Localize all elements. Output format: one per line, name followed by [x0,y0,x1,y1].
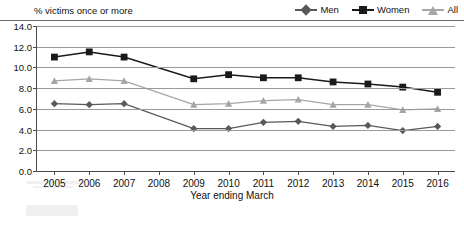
x-tick-mark [194,171,195,175]
gridline [37,130,455,131]
legend-item-men[interactable]: Men [295,4,338,15]
y-tick-label: 2.0 [19,145,32,156]
gridline [37,109,455,110]
x-tick-mark [124,171,125,175]
legend-item-all[interactable]: All [422,4,458,15]
gridline [37,47,455,48]
y-tick-mark [33,109,37,110]
data-point-men-2010[interactable] [225,125,232,132]
y-tick-label: 0.0 [19,166,32,177]
y-tick-label: 8.0 [19,83,32,94]
data-point-women-2010[interactable] [225,71,232,78]
x-axis-title: Year ending March [0,190,464,201]
x-tick-label: 2013 [322,178,344,189]
x-tick-label: 2010 [217,178,239,189]
gridline [37,150,455,151]
x-tick-mark [229,171,230,175]
data-point-men-2014[interactable] [364,122,371,129]
x-tick-mark [333,171,334,175]
x-tick-mark [89,171,90,175]
x-tick-mark [298,171,299,175]
data-point-women-2007[interactable] [121,54,128,61]
data-point-women-2006[interactable] [86,48,93,55]
x-tick-mark [403,171,404,175]
data-point-women-2015[interactable] [399,84,406,91]
x-tick-mark [159,171,160,175]
data-point-women-2013[interactable] [330,79,337,86]
y-tick-mark [33,47,37,48]
series-lines [37,26,455,171]
data-point-men-2007[interactable] [120,100,127,107]
chart-title: % victims once or more [34,5,133,16]
legend-marker-diamond-icon [295,5,317,15]
series-line-men [54,104,437,131]
y-tick-label: 4.0 [19,124,32,135]
data-point-men-2011[interactable] [260,119,267,126]
data-point-men-2005[interactable] [51,100,58,107]
x-tick-label: 2007 [113,178,135,189]
legend-label-all: All [447,4,458,15]
data-point-women-2011[interactable] [260,74,267,81]
gridline [37,88,455,89]
y-tick-mark [33,171,37,172]
legend-marker-triangle-icon [422,5,444,15]
y-tick-label: 14.0 [14,21,33,32]
data-point-men-2015[interactable] [399,127,406,134]
x-tick-mark [54,171,55,175]
scan-smudge [26,205,78,216]
x-tick-mark [368,171,369,175]
y-tick-label: 12.0 [14,41,33,52]
x-tick-label: 2016 [426,178,448,189]
x-tick-label: 2009 [183,178,205,189]
x-tick-label: 2005 [43,178,65,189]
y-tick-mark [33,88,37,89]
legend-label-men: Men [320,4,338,15]
x-tick-label: 2008 [148,178,170,189]
data-point-men-2006[interactable] [86,101,93,108]
series-line-women [54,52,437,92]
gridline [37,67,455,68]
gridline [37,171,455,172]
x-tick-label: 2006 [78,178,100,189]
x-tick-label: 2015 [392,178,414,189]
x-tick-label: 2011 [253,178,275,189]
y-tick-label: 10.0 [14,62,33,73]
x-tick-mark [438,171,439,175]
plot-area: 0.02.04.06.08.010.012.014.02005200620072… [36,26,454,171]
data-point-men-2012[interactable] [295,118,302,125]
data-point-women-2005[interactable] [51,54,58,61]
data-point-women-2009[interactable] [190,75,197,82]
y-tick-mark [33,67,37,68]
chart-legend: Men Women All [295,4,458,15]
x-tick-label: 2014 [357,178,379,189]
legend-item-women[interactable]: Women [352,4,410,15]
legend-marker-square-icon [352,5,374,15]
data-point-men-2009[interactable] [190,125,197,132]
y-tick-mark [33,150,37,151]
data-point-women-2012[interactable] [295,74,302,81]
legend-label-women: Women [377,4,410,15]
x-tick-label: 2012 [287,178,309,189]
chart-figure: % victims once or more Men Women All 0.0… [0,0,464,225]
header-divider [0,20,464,21]
data-point-women-2016[interactable] [434,89,441,96]
y-tick-label: 6.0 [19,103,32,114]
y-tick-mark [33,26,37,27]
y-tick-mark [33,130,37,131]
series-line-all [54,79,437,110]
data-point-women-2014[interactable] [365,81,372,88]
x-tick-mark [263,171,264,175]
gridline [37,26,455,27]
